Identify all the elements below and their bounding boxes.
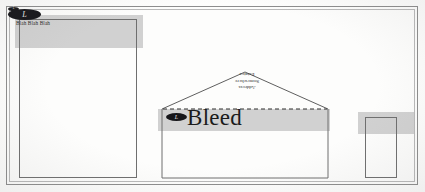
ellipse-logo-icon: L — [166, 113, 187, 121]
address-line-2: Somewhere — [212, 77, 282, 83]
stationery-bleed-figure: L Blah Blah Blah Address Somewhere Estat… — [0, 0, 425, 192]
letterhead-tagline: Blah Blah Blah — [16, 21, 50, 26]
business-card-logo: L — [8, 7, 19, 11]
envelope: Address Somewhere Estates L Bleed — [160, 68, 330, 180]
business-card — [365, 117, 397, 178]
address-line-3: Estates — [212, 71, 282, 77]
address-line-1: Address — [212, 84, 282, 90]
letterhead-sheet — [19, 19, 137, 178]
ellipse-logo-icon: L — [8, 7, 19, 11]
logo-letter: L — [22, 10, 26, 18]
envelope-logo: L — [166, 113, 187, 121]
logo-letter: L — [175, 114, 178, 120]
envelope-return-address: Address Somewhere Estates — [212, 71, 282, 90]
logo-letter: L — [13, 7, 15, 10]
bleed-label: Bleed — [187, 106, 242, 129]
